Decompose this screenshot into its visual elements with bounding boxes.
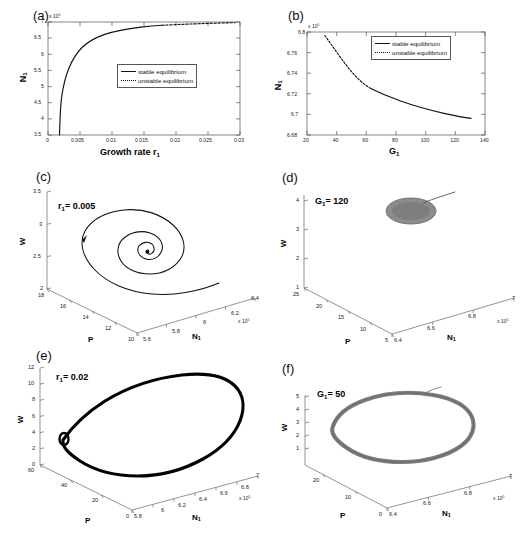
panel-a-ytick-7: 7 [41,18,44,24]
panel-e-ytick-2: 6.2 [178,502,186,508]
solid-line-swatch-icon [375,43,390,44]
dashed-line-swatch-icon [375,52,390,53]
panel-e-xtick-3: 60 [28,467,34,473]
panel-e-ytick-0: 5.8 [134,513,142,519]
panel-e-annotation: r1= 0.02 [56,372,88,383]
panel-c-ztick-1: 2.5 [33,253,41,259]
panel-a-ytick-3: 5 [41,83,44,89]
panel-c-ztick-2: 3 [39,221,42,227]
panel-f-ylabel: N1 [442,509,451,518]
panel-c-ylabel-sub: 1 [198,335,201,341]
panel-b-exponent: x 105 [308,23,319,29]
legend-item-stable: stable equilibrium [375,39,447,48]
panel-b-xlabel-main: G [389,146,396,156]
panel-c-ytick-0: 5.6 [143,336,151,342]
panel-d-exponent: x 105 [497,318,508,324]
panel-e-ylabel-sub: 1 [198,516,201,522]
panel-f-ztick-3: 4 [296,406,299,412]
panel-e-xlabel: P [85,516,90,525]
panel-d-label: (d) [282,170,298,185]
panel-e-ztick-1: 2 [32,445,35,451]
panel-e-ytick-1: 6 [161,507,164,513]
panel-c-annotation: r1= 0.005 [58,201,95,212]
panel-d-plot [265,165,531,345]
panel-e-ztick-4: 8 [32,396,35,402]
panel-b-ytick-2: 6.72 [287,91,297,97]
panel-f: (f) [265,345,531,537]
panel-b-exponent-sup: 5 [317,23,319,27]
panel-d-annotation: G1= 120 [315,196,348,207]
dashed-line-swatch-icon [121,80,136,81]
panel-c-exponent: x 105 [238,318,249,324]
panel-f-label: (f) [282,361,294,376]
panel-a-legend: stable equilibrium unstable equilibrium [117,64,197,88]
panel-f-xtick-1: 10 [345,494,351,500]
panel-a-xtick-2: 0.01 [106,137,116,143]
panel-d-xtick-2: 15 [338,314,344,320]
figure-container: (a) [0,0,531,537]
panel-a-ytick-1: 4 [41,115,44,121]
panel-b-ytick-0: 6.68 [287,132,297,138]
panel-d-xtick-0: 5 [385,337,388,343]
panel-a-ytick-5: 6 [41,51,44,57]
panel-c-zlabel: W [18,238,27,246]
legend-item-unstable: unstable equilibrium [121,76,193,85]
panel-e: (e) [0,345,265,537]
panel-f-exponent: x 105 [493,495,504,501]
panel-f-annot-val: = 50 [327,389,345,399]
panel-d-ztick-0: 1 [296,284,299,290]
panel-f-ytick-2: 6.8 [464,490,472,496]
panel-f-ztick-0: 1 [296,445,299,451]
panel-f-ztick-1: 2 [296,432,299,438]
panel-a-xtick-4: 0.02 [170,137,180,143]
panel-c-ztick-0: 2 [40,285,43,291]
panel-d-ztick-1: 2 [296,255,299,261]
panel-c-ylabel: N1 [192,332,201,341]
solid-line-swatch-icon [121,71,136,72]
panel-d-ylabel-sub: 1 [453,336,456,342]
legend-item-unstable: unstable equilibrium [375,48,447,57]
panel-a-ylabel-main: N [18,76,28,83]
panel-e-xtick-2: 40 [61,482,67,488]
panel-f-ytick-1: 6.6 [423,500,431,506]
panel-d-ztick-3: 4 [296,197,299,203]
panel-a-xtick-0: 0 [46,137,49,143]
panel-d-ytick-2: 6.8 [468,313,476,319]
panel-e-label: (e) [36,348,52,363]
panel-b-xtick-3: 80 [392,137,398,143]
panel-b-ylabel-sub: 1 [276,80,283,83]
panel-c-label: (c) [36,169,51,184]
panel-b-xtick-0: 20 [303,137,309,143]
panel-c-xlabel: P [88,335,93,344]
panel-d-annot-main: G [315,196,322,206]
panel-f-ytick-3: 7 [509,473,512,479]
panel-b-xtick-2: 60 [362,137,368,143]
panel-b-xlabel-sub: 1 [396,150,399,157]
panel-b-xtick-6: 140 [480,137,489,143]
panel-c: (c) [0,165,265,345]
panel-e-exponent-sup: 5 [248,495,250,499]
legend-label-unstable: unstable equilibrium [138,77,193,84]
panel-c-ytick-4: 6.4 [251,295,259,301]
panel-b-ytick-5: 6.8 [298,29,305,35]
panel-f-annotation: G1= 50 [317,389,345,400]
panel-f-xtick-0: 0 [379,511,382,517]
panel-b-ytick-3: 6.74 [287,70,297,76]
panel-f-xlabel: P [340,511,345,520]
panel-d-exponent-sup: 5 [506,318,508,322]
panel-b-label: (b) [288,8,304,23]
panel-d-xtick-1: 10 [360,326,366,332]
panel-d-ytick-0: 6.4 [394,337,402,343]
panel-e-ztick-3: 6 [32,413,35,419]
panel-b-ylabel-main: N [273,84,283,91]
panel-d-zlabel: W [279,240,288,248]
panel-c-ytick-1: 5.8 [172,328,180,334]
panel-d-annot-val: = 120 [325,196,348,206]
panel-e-plot [0,345,265,537]
legend-label-unstable: unstable equilibrium [392,49,447,56]
panel-a-exponent: x 105 [49,13,60,19]
panel-c-xtick-2: 14 [83,314,89,320]
panel-c-ztick-3: 3.5 [33,188,41,194]
panel-f-plot [265,345,531,537]
panel-e-annot-val: = 0.02 [63,372,88,382]
